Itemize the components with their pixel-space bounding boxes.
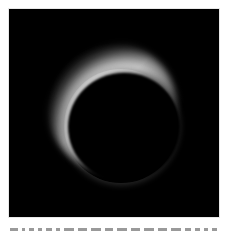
figure-image [9, 9, 219, 217]
dark-disc [68, 73, 180, 181]
figure-caption [10, 226, 225, 233]
clipped-caption-glyphs [10, 226, 225, 233]
